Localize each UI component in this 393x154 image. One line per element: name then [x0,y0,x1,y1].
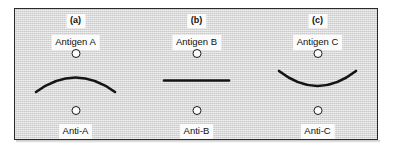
panel-b-antibody-label: Anti-B [180,124,214,139]
panel-b-antigen-well [192,49,201,58]
panel-b-precipitin-straight-line-icon [136,9,257,139]
panel-b-letter: (b) [187,14,207,28]
frame-drop-shadow [16,140,380,143]
panel-a-antigen-well [71,49,80,58]
panel-a-antigen-label: Antigen A [51,35,100,50]
panel-c-antibody-label: Anti-C [300,124,334,139]
panel-b-antibody-well [192,106,201,115]
panel-a-letter: (a) [66,14,85,28]
panel-c-antigen-label: Antigen C [293,35,343,50]
panel-c-letter: (c) [308,14,327,28]
panel-c-precipitin-arc-concave-up-icon [257,9,378,139]
panel-a-antibody-label: Anti-A [59,124,93,139]
panel-b: (b) Antigen B Anti-B [136,9,257,139]
figure-frame: (a) Antigen A Anti-A (b) Antigen B Anti-… [14,8,378,140]
panel-c: (c) Antigen C Anti-C [257,9,378,139]
panel-b-antigen-label: Antigen B [172,35,221,50]
panel-a-precipitin-arc-convex-up-icon [15,9,136,139]
immunodiffusion-figure: (a) Antigen A Anti-A (b) Antigen B Anti-… [0,0,393,154]
panel-a: (a) Antigen A Anti-A [15,9,136,139]
panel-c-antigen-well [313,49,322,58]
panel-a-antibody-well [71,106,80,115]
panel-c-antibody-well [313,106,322,115]
